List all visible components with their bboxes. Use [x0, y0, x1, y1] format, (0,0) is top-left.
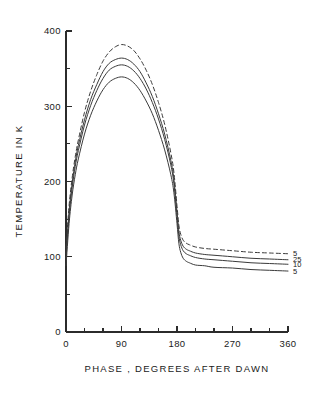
x-axis-tick-label: 270 [224, 338, 241, 349]
x-axis-title: PHASE , DEGREES AFTER DAWN [85, 363, 270, 374]
curve-end-label-3: 5 [293, 267, 297, 276]
x-axis-tick-label: 90 [116, 338, 127, 349]
y-axis-tick-label: 100 [44, 251, 61, 262]
y-axis-tick-label: 300 [44, 101, 61, 112]
x-axis-ticks [66, 326, 288, 332]
chart-axes [66, 31, 288, 332]
x-axis-tick-labels: 090180270360 [63, 338, 296, 349]
curve-end-labels: 525105 [293, 249, 301, 275]
data-curve-1 [66, 58, 288, 260]
y-axis-tick-label: 200 [44, 176, 61, 187]
x-axis-tick-label: 0 [63, 338, 69, 349]
y-axis-ticks [66, 31, 72, 332]
data-curves [66, 45, 288, 272]
data-curve-3 [66, 77, 288, 271]
data-curve-2 [66, 65, 288, 264]
x-axis-tick-label: 360 [279, 338, 296, 349]
x-axis-tick-label: 180 [168, 338, 185, 349]
y-axis-tick-label: 0 [55, 326, 61, 337]
y-axis-title: TEMPERATURE IN K [13, 125, 24, 238]
y-axis-tick-label: 400 [44, 25, 61, 36]
temperature-phase-line-chart: 0100200300400 090180270360 525105 PHASE … [0, 0, 314, 394]
chart-figure: 0100200300400 090180270360 525105 PHASE … [0, 0, 314, 394]
y-axis-tick-labels: 0100200300400 [44, 25, 61, 337]
